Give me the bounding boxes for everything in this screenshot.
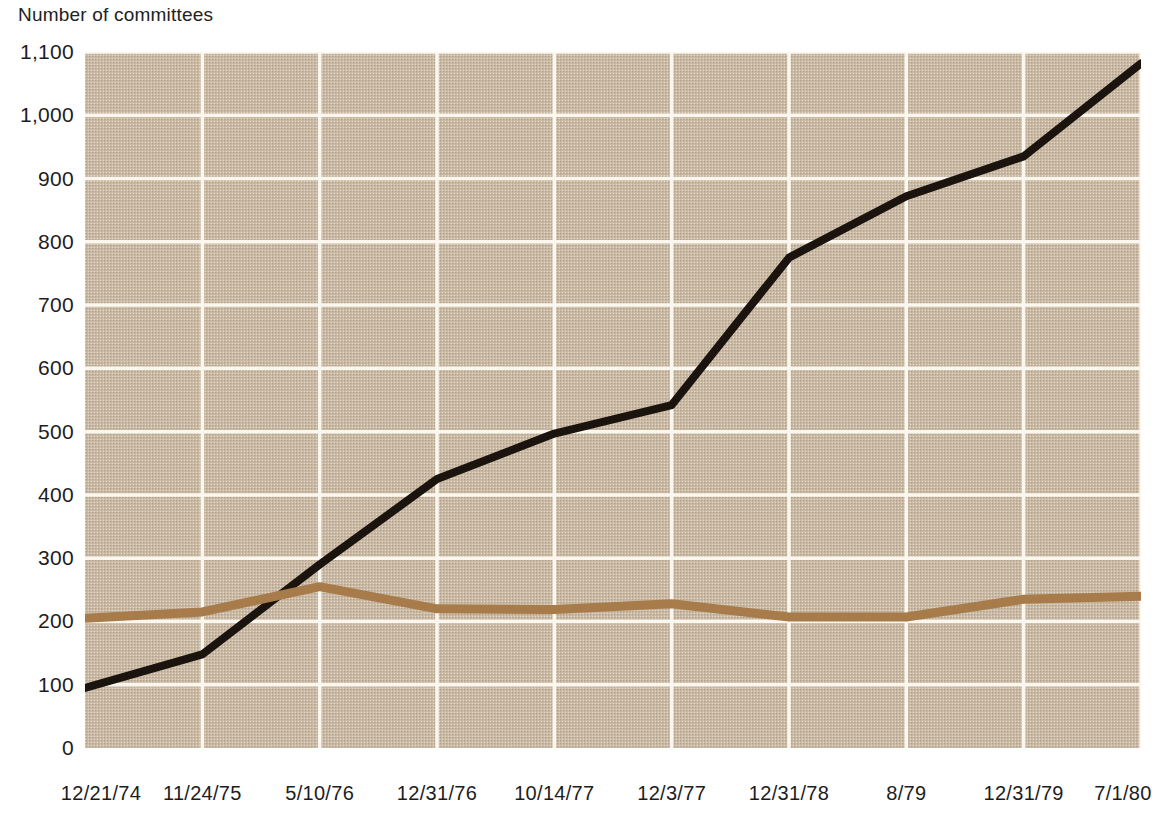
x-tick-label: 12/31/79 bbox=[984, 782, 1064, 805]
x-tick-label: 12/31/76 bbox=[397, 782, 477, 805]
x-tick-label: 12/21/74 bbox=[61, 782, 141, 805]
x-tick-label: 10/14/77 bbox=[514, 782, 594, 805]
x-tick-label: 12/3/77 bbox=[637, 782, 706, 805]
x-tick-label: 12/31/78 bbox=[749, 782, 829, 805]
x-tick-label: 5/10/76 bbox=[285, 782, 354, 805]
x-tick-label: 7/1/80 bbox=[1094, 782, 1151, 805]
x-tick-label: 11/24/75 bbox=[163, 782, 242, 805]
x-tick-label: 8/79 bbox=[886, 782, 926, 805]
